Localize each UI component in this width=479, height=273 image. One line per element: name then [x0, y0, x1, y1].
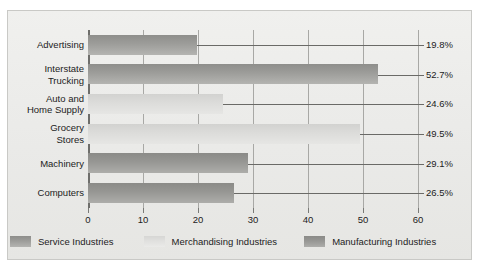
leader-line [197, 45, 424, 46]
x-axis: 0102030405060 [88, 208, 424, 230]
plot-area [88, 30, 418, 208]
x-tick-label: 50 [351, 214, 375, 225]
legend-item-manu[interactable]: Manufacturing Industries [304, 236, 436, 247]
category-label: Advertising [8, 39, 84, 51]
legend-label: Manufacturing Industries [332, 236, 436, 247]
value-label: 19.8% [426, 39, 453, 50]
value-label: 26.5% [426, 187, 453, 198]
x-tick-label: 40 [296, 214, 320, 225]
x-tick [143, 208, 144, 213]
bar-manu[interactable] [88, 183, 234, 203]
value-label-column: 19.8%52.7%24.6%49.5%29.1%26.5% [424, 30, 474, 208]
x-tick [88, 208, 89, 213]
x-tick-label: 60 [406, 214, 430, 225]
bar-row [88, 60, 418, 90]
leader-line [360, 134, 424, 135]
bar-service[interactable] [88, 64, 378, 84]
chart-legend: Service IndustriesMerchandising Industri… [10, 232, 465, 250]
leader-line [234, 193, 424, 194]
value-label: 52.7% [426, 69, 453, 80]
x-tick [198, 208, 199, 213]
bar-service[interactable] [88, 35, 197, 55]
chart-page: AdvertisingInterstate TruckingAuto and H… [0, 0, 479, 273]
leader-line [223, 104, 424, 105]
bar-merch[interactable] [88, 124, 360, 144]
legend-swatch-icon [144, 236, 165, 247]
legend-label: Service Industries [38, 236, 114, 247]
legend-item-merch[interactable]: Merchandising Industries [144, 236, 278, 247]
bar-merch[interactable] [88, 94, 223, 114]
legend-swatch-icon [10, 236, 31, 247]
x-tick [363, 208, 364, 213]
legend-label: Merchandising Industries [172, 236, 278, 247]
category-label: Computers [8, 187, 84, 199]
x-tick [308, 208, 309, 213]
category-label: Auto and Home Supply [8, 93, 84, 116]
gridline-60 [418, 30, 419, 208]
category-label: Grocery Stores [8, 122, 84, 145]
bar-manu[interactable] [88, 153, 248, 173]
x-tick-label: 10 [131, 214, 155, 225]
legend-swatch-icon [304, 236, 325, 247]
value-label: 29.1% [426, 158, 453, 169]
leader-line [248, 164, 424, 165]
x-tick [253, 208, 254, 213]
x-tick-label: 20 [186, 214, 210, 225]
category-label: Interstate Trucking [8, 63, 84, 86]
leader-line [378, 75, 424, 76]
x-tick-label: 30 [241, 214, 265, 225]
value-label: 24.6% [426, 98, 453, 109]
category-axis: AdvertisingInterstate TruckingAuto and H… [6, 30, 84, 208]
x-tick-label: 0 [76, 214, 100, 225]
value-label: 49.5% [426, 128, 453, 139]
x-tick [418, 208, 419, 213]
category-label: Machinery [8, 158, 84, 170]
legend-item-service[interactable]: Service Industries [10, 236, 114, 247]
